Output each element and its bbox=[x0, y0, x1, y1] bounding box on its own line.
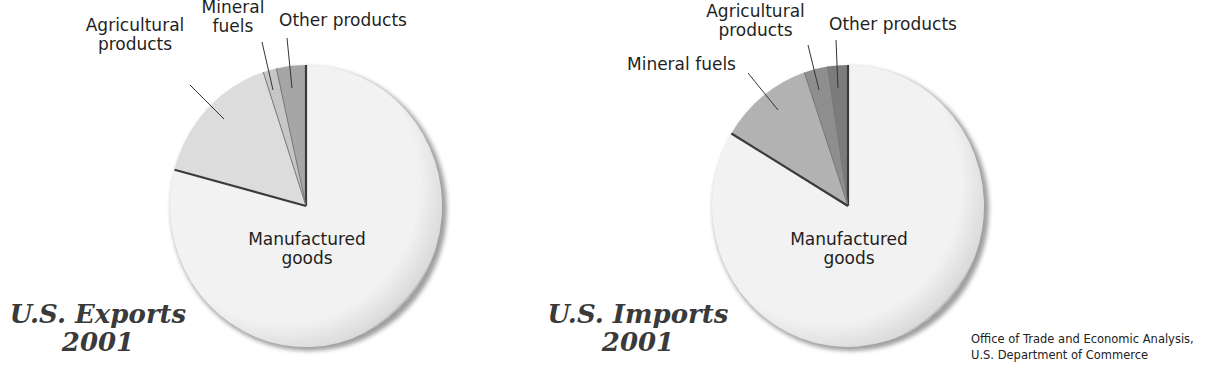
imports-title-line1: U.S. Imports bbox=[543, 300, 733, 328]
source-credit: Office of Trade and Economic Analysis, U… bbox=[971, 331, 1194, 363]
exports-label-agricultural: Agricultural products bbox=[75, 16, 195, 54]
exports-label-agricultural-line1: Agricultural bbox=[75, 16, 195, 35]
exports-title-line2: 2001 bbox=[8, 328, 188, 356]
exports-label-mineral: Mineral fuels bbox=[198, 0, 268, 36]
source-credit-line2: U.S. Department of Commerce bbox=[971, 347, 1194, 363]
exports-chart-title: U.S. Exports 2001 bbox=[8, 300, 188, 356]
imports-label-manufactured-line2: goods bbox=[774, 249, 924, 268]
imports-label-manufactured: Manufactured goods bbox=[774, 230, 924, 268]
exports-label-manufactured-line1: Manufactured bbox=[232, 230, 382, 249]
exports-label-mineral-line2: fuels bbox=[198, 17, 268, 36]
imports-title-line2: 2001 bbox=[543, 328, 733, 356]
exports-label-mineral-line1: Mineral bbox=[198, 0, 268, 17]
imports-label-mineral: Mineral fuels bbox=[627, 55, 736, 74]
source-credit-line1: Office of Trade and Economic Analysis, bbox=[971, 331, 1194, 347]
exports-pie bbox=[170, 38, 447, 351]
imports-label-agricultural-line1: Agricultural bbox=[693, 2, 818, 21]
imports-label-agricultural: Agricultural products bbox=[693, 2, 818, 40]
imports-label-agricultural-line2: products bbox=[693, 21, 818, 40]
imports-pie bbox=[712, 40, 989, 351]
exports-label-other: Other products bbox=[279, 11, 407, 30]
exports-title-line1: U.S. Exports bbox=[8, 300, 188, 328]
exports-label-manufactured: Manufactured goods bbox=[232, 230, 382, 268]
exports-label-manufactured-line2: goods bbox=[232, 249, 382, 268]
imports-label-manufactured-line1: Manufactured bbox=[774, 230, 924, 249]
imports-label-other: Other products bbox=[829, 15, 957, 34]
imports-chart-title: U.S. Imports 2001 bbox=[543, 300, 733, 356]
exports-label-agricultural-line2: products bbox=[75, 35, 195, 54]
